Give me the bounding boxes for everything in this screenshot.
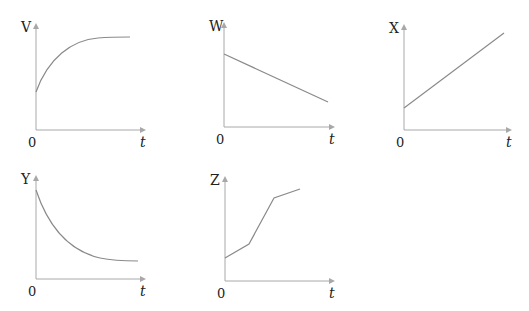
graphs-canvas: V0tW0tX0tY0tZ0t (0, 0, 529, 311)
x-axis-label: t (506, 134, 512, 150)
curve-x (404, 33, 504, 108)
y-axis-arrow-icon (33, 175, 39, 181)
x-axis-arrow-icon (506, 127, 512, 133)
origin-label: 0 (396, 135, 404, 150)
curve-y (36, 190, 138, 261)
curve-z (225, 189, 300, 258)
y-axis-label: X (389, 20, 399, 36)
graph-v: V0t (20, 19, 146, 150)
graph-w: W0t (209, 18, 335, 147)
y-axis-arrow-icon (222, 176, 228, 182)
x-axis-label: t (140, 134, 146, 150)
curve-v (36, 37, 130, 92)
origin-label: 0 (216, 132, 224, 147)
y-axis-arrow-icon (33, 23, 39, 29)
y-axis-arrow-icon (401, 24, 407, 30)
y-axis-label: W (209, 18, 224, 34)
x-axis-label: t (140, 283, 146, 299)
origin-label: 0 (28, 284, 36, 299)
y-axis-label: Y (20, 171, 31, 187)
origin-label: 0 (217, 286, 225, 301)
x-axis-arrow-icon (329, 278, 335, 284)
graph-x: X0t (389, 20, 512, 150)
curve-w (224, 54, 328, 102)
y-axis-label: V (20, 19, 32, 35)
x-axis-arrow-icon (140, 276, 146, 282)
y-axis-label: Z (210, 172, 220, 188)
origin-label: 0 (28, 135, 36, 150)
x-axis-arrow-icon (140, 127, 146, 133)
graph-y: Y0t (20, 171, 146, 299)
x-axis-label: t (329, 131, 335, 147)
x-axis-label: t (329, 285, 335, 301)
graph-z: Z0t (210, 172, 335, 301)
x-axis-arrow-icon (329, 124, 335, 130)
